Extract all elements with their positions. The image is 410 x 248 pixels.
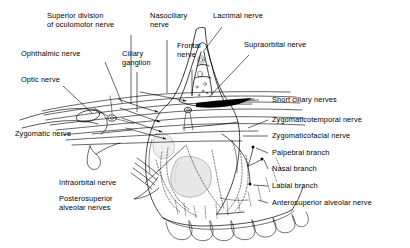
leader-nasal-branch (264, 160, 268, 169)
anatomical-figure: Superior division of oculomotor nerve Na… (0, 0, 410, 248)
nerve-bundle (42, 92, 305, 145)
label-zygomaticofacial-nerve: Zygomaticofacial nerve (272, 132, 350, 141)
label-short-ciliary-nerves: Short ciliary nerves (272, 96, 337, 105)
label-anterosuperior-alveolar-nerve: Anterosuperior alveolar nerve (272, 199, 372, 208)
nerve-arrows (118, 92, 186, 139)
maxillary-sinus (171, 156, 212, 197)
teeth-row (163, 211, 308, 241)
leader-labial (253, 185, 268, 186)
leader-palpebral (256, 148, 268, 153)
label-zygomatic-nerve: Zygomatic nerve (15, 130, 71, 139)
label-zygomaticotemporal-nerve: Zygomaticotemporal nerve (272, 116, 362, 125)
nasal-cavity (153, 133, 174, 158)
leader-anterosuperior (258, 200, 268, 203)
infraorbital-branches (222, 134, 264, 186)
label-supraorbital-nerve: Supraorbital nerve (244, 41, 306, 50)
leader-ophthalmic (105, 62, 122, 103)
label-labial-branch: Labial branch (272, 182, 318, 191)
label-nasociliary-nerve: Nasociliary nerve (150, 12, 187, 29)
leader-lines (63, 27, 268, 203)
skull-outline (169, 27, 227, 106)
label-superior-division-oculomotor-nerve: Superior division of oculomotor nerve (47, 12, 114, 29)
label-frontal-nerve: Frontal nerve (177, 42, 201, 59)
label-palpebral-branch: Palpebral branch (272, 149, 329, 158)
posterosuperior-alveolar-nerves (131, 158, 159, 189)
label-infraorbital-nerve: Infraorbital nerve (59, 179, 116, 188)
label-ophthalmic-nerve: Ophthalmic nerve (21, 50, 81, 59)
short-ciliary-nerve-wedge (196, 98, 254, 108)
label-nasal-branch: Nasal branch (272, 165, 317, 174)
label-posterosuperior-alveolar-nerves: Posterosuperior alveolar nerves (59, 195, 113, 212)
zygomatic-nerve-loop (87, 143, 120, 169)
label-ciliary-ganglion: Ciliary ganglion (122, 50, 151, 67)
label-lacrimal-nerve: Lacrimal nerve (213, 12, 263, 21)
ciliary-ganglion (94, 96, 134, 124)
label-optic-nerve: Optic nerve (21, 76, 60, 85)
leader-posterosuperior-a (134, 177, 158, 199)
